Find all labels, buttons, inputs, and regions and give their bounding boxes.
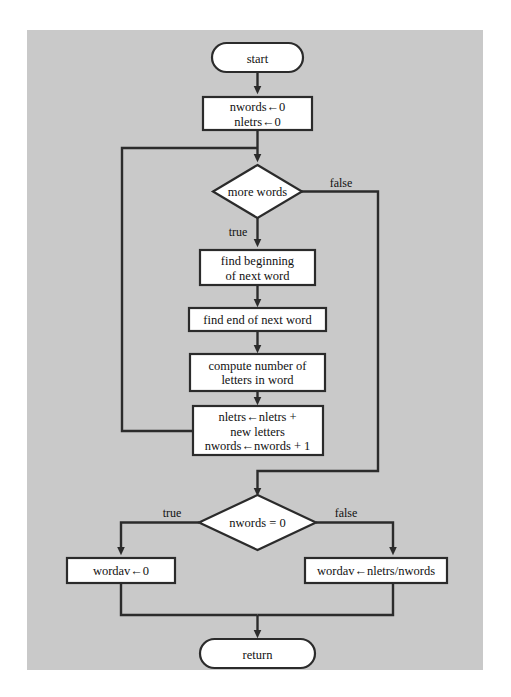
edge-merge-left: [121, 583, 258, 615]
node-find-beginning-line1: find beginning: [221, 254, 295, 268]
node-find-beginning: find beginning of next word: [200, 250, 315, 285]
node-find-beginning-line2: of next word: [226, 269, 291, 283]
node-wordav-div: wordav←nletrs/nwords: [305, 558, 447, 583]
node-init-line2: nletrs←0: [234, 115, 281, 129]
edge-label-true-top: true: [229, 225, 248, 239]
node-compute-line1: compute number of: [209, 359, 308, 373]
node-compute-line2: letters in word: [221, 373, 294, 387]
edge-label-true-bottom: true: [163, 506, 182, 520]
edge-nwords-zero-true: [121, 523, 199, 552]
node-accumulate-line3: nwords←nwords + 1: [205, 439, 311, 453]
node-nwords-zero-label: nwords = 0: [229, 516, 285, 530]
edge-label-false-bottom: false: [335, 506, 358, 520]
node-accumulate: nletrs←nletrs + new letters nwords←nword…: [193, 406, 323, 455]
edge-nwords-zero-false: [316, 523, 393, 552]
node-compute-letters: compute number of letters in word: [190, 354, 325, 391]
node-start: start: [212, 43, 303, 72]
edge-merge-right: [258, 583, 394, 615]
edge-label-false-top: false: [330, 176, 353, 190]
node-find-end: find end of next word: [189, 308, 326, 331]
flowchart-page: start nwords←0 nletrs←0 more words false…: [0, 0, 511, 697]
node-wordav-div-label: wordav←nletrs/nwords: [317, 564, 435, 578]
node-wordav-zero-label: wordav←0: [93, 564, 149, 578]
node-start-label: start: [247, 52, 269, 66]
node-find-end-label: find end of next word: [203, 313, 312, 327]
node-init: nwords←0 nletrs←0: [203, 97, 312, 130]
node-accumulate-line2: new letters: [230, 425, 285, 439]
node-return: return: [200, 639, 315, 668]
node-more-words: more words: [213, 165, 302, 218]
node-more-words-label: more words: [228, 185, 287, 199]
node-accumulate-line1: nletrs←nletrs +: [218, 410, 296, 424]
flowchart-canvas: start nwords←0 nletrs←0 more words false…: [0, 0, 511, 697]
node-wordav-zero: wordav←0: [67, 558, 175, 583]
node-nwords-zero: nwords = 0: [199, 495, 316, 550]
node-init-line1: nwords←0: [230, 100, 286, 114]
node-return-label: return: [243, 648, 274, 662]
